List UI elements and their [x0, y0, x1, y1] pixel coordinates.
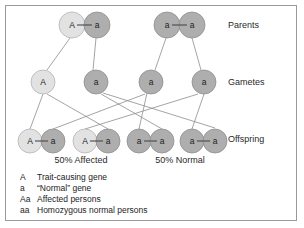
legend-text-0: Trait-causing gene [37, 172, 107, 182]
ratio-normal: 50% Normal [155, 155, 205, 165]
gamete-4: a [192, 70, 216, 94]
allele-label: a [149, 77, 154, 87]
legend-text-3: Homozygous normal persons [37, 205, 148, 215]
row-label-gametes: Gametes [228, 77, 265, 87]
allele-label: a [190, 20, 195, 30]
gamete-2: a [84, 70, 108, 94]
allele-label: a [202, 77, 207, 87]
allele-label: a [160, 136, 165, 146]
ratio-affected: 50% Affected [55, 155, 108, 165]
parent-to-gamete-links [47, 38, 201, 70]
link-p1-g2 [93, 38, 96, 70]
legend: ATrait-causing genea“Normal” geneAaAffec… [20, 172, 148, 215]
offspring-2: Aa [73, 129, 120, 153]
gametes-row: Aaaa [31, 70, 216, 94]
allele-label: a [94, 77, 99, 87]
parent-1: Aa [59, 12, 110, 38]
allele-label: a [51, 136, 56, 146]
ratio-labels: 50% Affected50% Normal [55, 155, 205, 165]
parents-row: Aaaa [59, 12, 205, 38]
figure-root: Aaaa Aaaa AaAaaaaa 50% Affected50% Norma… [0, 0, 304, 228]
gamete-1: A [31, 70, 55, 94]
link-g1-o1 [30, 94, 43, 129]
allele-label: a [213, 136, 218, 146]
offspring-1: Aa [18, 129, 65, 153]
row-labels: ParentsGametesOffspring [228, 20, 265, 144]
gamete-3: a [139, 70, 163, 94]
row-label-parents: Parents [228, 20, 260, 30]
allele-label: a [95, 20, 100, 30]
offspring-3: aa [127, 129, 174, 153]
allele-label: a [165, 20, 170, 30]
allele-label: a [137, 136, 142, 146]
row-label-offspring: Offspring [228, 134, 264, 144]
offspring-4: aa [180, 129, 227, 153]
legend-key-3: aa [20, 205, 30, 215]
allele-label: A [69, 20, 75, 30]
allele-label: A [40, 77, 46, 87]
legend-text-2: Affected persons [37, 194, 101, 204]
inheritance-diagram: Aaaa Aaaa AaAaaaaa 50% Affected50% Norma… [0, 0, 304, 228]
link-g4-o2 [85, 94, 198, 129]
legend-key-2: Aa [20, 194, 31, 204]
allele-label: a [106, 136, 111, 146]
gamete-to-offspring-links [30, 93, 215, 129]
legend-key-1: a [20, 183, 25, 193]
offspring-row: AaAaaaaa [18, 129, 227, 153]
legend-text-1: “Normal” gene [37, 183, 92, 193]
link-p2-g4 [192, 38, 201, 70]
link-p2-g3 [155, 38, 166, 70]
legend-key-0: A [20, 172, 26, 182]
allele-label: A [27, 136, 33, 146]
link-p1-g1 [47, 38, 70, 70]
allele-label: a [190, 136, 195, 146]
parent-2: aa [154, 12, 205, 38]
allele-label: A [82, 136, 88, 146]
